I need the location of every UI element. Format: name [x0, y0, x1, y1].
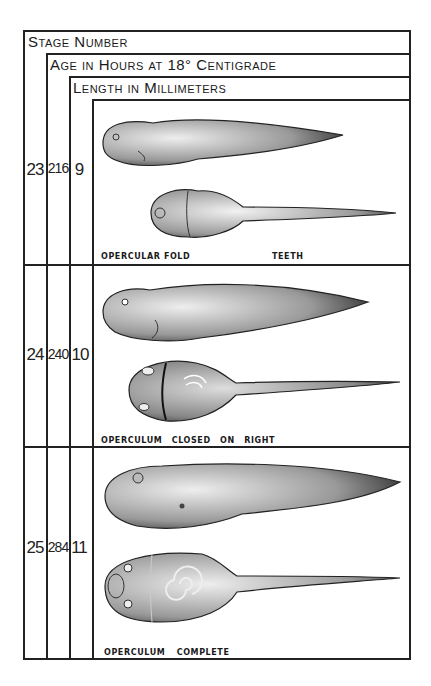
caption-operculum-complete: OPERCULUM COMPLETE: [104, 648, 230, 657]
header-divider-1: [46, 53, 411, 55]
row-divider-2: [23, 446, 411, 448]
tadpole-ventral-icon: [126, 355, 402, 425]
header-length-mm: Length in Millimeters: [73, 79, 226, 96]
tadpole-lateral-icon: [102, 460, 402, 532]
header-divider-3: [92, 99, 411, 101]
caption-operculum-closed: OPERCULUM CLOSED ON RIGHT: [101, 436, 275, 445]
column-divider-figure: [92, 99, 94, 660]
header-age-hours: Age in Hours at 18° Centigrade: [50, 56, 276, 73]
frame-bottom: [23, 658, 411, 660]
age-hours: 216: [47, 160, 69, 176]
tadpole-ventral-icon: [148, 185, 398, 240]
tadpole-ventral-icon: [102, 548, 402, 626]
header-divider-2: [69, 76, 411, 78]
header-stage-number: Stage Number: [28, 33, 128, 50]
tadpole-lateral-icon: [100, 280, 372, 346]
length-mm: 11: [70, 538, 88, 558]
age-hours: 240: [47, 346, 69, 362]
stage-number: 23: [24, 160, 46, 180]
frame-right: [409, 30, 411, 660]
row-divider-1: [23, 264, 411, 266]
caption-opercular-fold: OPERCULAR FOLD: [101, 252, 190, 261]
frame-top: [23, 30, 411, 32]
length-mm: 10: [70, 345, 90, 365]
stage-number: 24: [24, 345, 46, 365]
stage-number: 25: [24, 538, 46, 558]
tadpole-lateral-icon: [98, 113, 348, 173]
age-hours: 284: [47, 539, 69, 555]
caption-teeth: TEETH: [272, 252, 304, 261]
length-mm: 9: [70, 160, 88, 180]
